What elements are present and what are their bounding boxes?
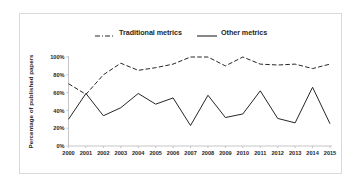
y-tick-label: 80%	[53, 72, 64, 78]
x-tick-label: 2004	[132, 150, 145, 156]
x-tick-label: 2002	[97, 150, 109, 156]
x-tick-label: 2014	[306, 150, 319, 156]
x-tick-label: 2007	[184, 150, 196, 156]
x-tick-label: 2015	[324, 150, 336, 156]
x-tick-label: 2011	[254, 150, 266, 156]
x-tick-label: 2006	[167, 150, 179, 156]
y-axis-title: Percentage of published papers	[27, 54, 34, 148]
x-tick-label: 2003	[115, 150, 127, 156]
series-line-other-metrics	[69, 87, 331, 125]
x-tick-label: 2012	[271, 150, 283, 156]
x-tick-label: 2001	[80, 150, 92, 156]
chart-series-lines	[69, 57, 331, 126]
chart-figure: Traditional metrics Other metrics Percen…	[0, 0, 363, 189]
y-tick-label: 20%	[53, 125, 64, 131]
y-tick-label: 0%	[56, 143, 64, 149]
chart-plot-area: Percentage of published papers 0%20%40%6…	[0, 0, 363, 189]
y-axis: 0%20%40%60%80%100%	[50, 54, 68, 149]
series-line-traditional-metrics	[69, 57, 331, 94]
y-tick-label: 100%	[50, 54, 64, 60]
y-tick-label: 60%	[53, 90, 64, 96]
x-tick-label: 2010	[237, 150, 249, 156]
x-tick-label: 2005	[149, 150, 161, 156]
x-tick-label: 2009	[219, 150, 231, 156]
x-tick-label: 2013	[289, 150, 301, 156]
y-axis-title-text: Percentage of published papers	[27, 54, 34, 148]
x-tick-label: 2008	[202, 150, 214, 156]
x-tick-label: 2000	[62, 150, 74, 156]
y-tick-label: 40%	[53, 108, 64, 114]
x-axis: 2000200120022003200420052006200720082009…	[62, 146, 336, 156]
